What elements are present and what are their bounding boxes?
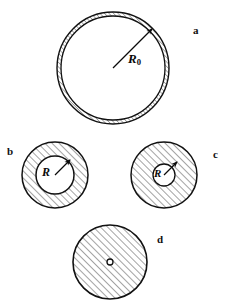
panel-a-group	[54, 9, 174, 129]
panel-c-group	[129, 140, 199, 210]
radius-label-a-subscript: 0	[137, 57, 141, 67]
panel-a-hatch-fill	[54, 9, 174, 129]
circle-collapse-diagram	[0, 0, 230, 304]
panel-label-a: a	[193, 25, 199, 36]
radius-label-c: R	[154, 168, 161, 181]
panel-d-centre-point	[107, 259, 113, 265]
panel-d-group	[72, 224, 148, 300]
radius-label-c-symbol: R	[154, 167, 161, 179]
radius-label-a: R0	[128, 52, 141, 67]
radius-label-b-symbol: R	[42, 165, 50, 179]
figure-root: R0 R R a b c d	[0, 0, 230, 304]
panel-label-b: b	[7, 146, 13, 157]
panel-b-group	[20, 140, 90, 210]
radius-label-a-symbol: R	[128, 51, 137, 66]
panel-label-c: c	[213, 149, 218, 160]
panel-label-d: d	[157, 234, 163, 245]
radius-label-b: R	[42, 166, 50, 180]
